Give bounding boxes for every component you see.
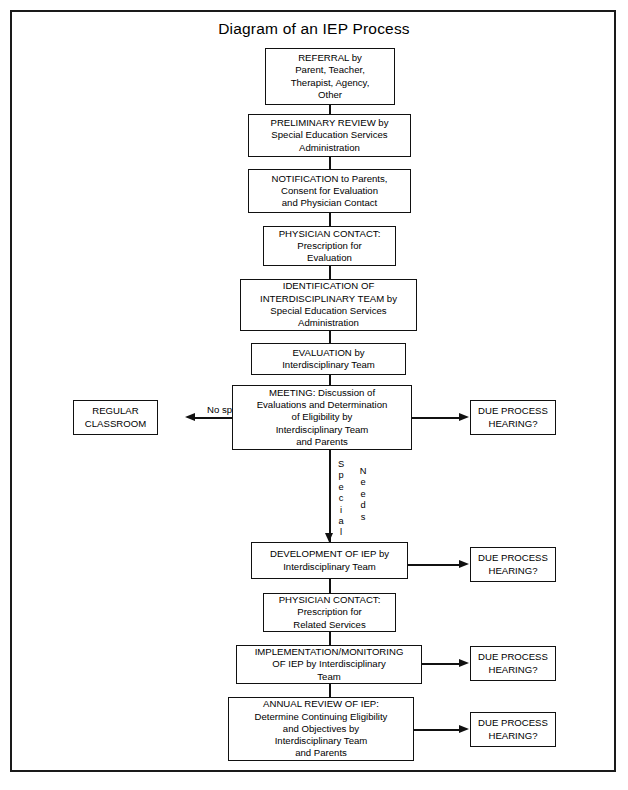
- connector-development-to-physician-services: [329, 579, 331, 593]
- node-physician-contact-related-services[interactable]: PHYSICIAN CONTACT: Prescription for Rela…: [263, 593, 396, 632]
- node-due-process-hearing-3[interactable]: DUE PROCESS HEARING?: [470, 646, 556, 681]
- connector-implementation-to-annual: [329, 684, 331, 697]
- node-annual-review-label: ANNUAL REVIEW OF IEP: Determine Continui…: [232, 698, 410, 759]
- connector-notification-to-physician: [329, 213, 331, 226]
- arrowhead-meeting-to-development: [325, 533, 333, 542]
- node-implementation-monitoring-label: IMPLEMENTATION/MONITORING OF IEP by Inte…: [240, 646, 418, 683]
- diagram-title: Diagram of an IEP Process: [0, 20, 628, 38]
- node-evaluation-label: EVALUATION by Interdisciplinary Team: [255, 347, 402, 372]
- edge-label-needs: Needs Needs: [358, 466, 368, 523]
- node-due-process-hearing-4[interactable]: DUE PROCESS HEARING?: [470, 712, 556, 747]
- connector-physician-to-identification: [329, 266, 331, 279]
- connector-meeting-to-development: [329, 450, 331, 542]
- node-meeting-label: MEETING: Discussion of Evaluations and D…: [236, 387, 408, 448]
- node-preliminary-review[interactable]: PRELIMINARY REVIEW by Special Education …: [248, 114, 411, 157]
- node-referral[interactable]: REFERRAL by Parent, Teacher, Therapist, …: [265, 48, 395, 105]
- connector-annual-review-to-due-process-4: [414, 729, 460, 731]
- arrowhead-due-process-2: [459, 560, 469, 568]
- node-notification-label: NOTIFICATION to Parents, Consent for Eva…: [252, 173, 407, 210]
- node-notification[interactable]: NOTIFICATION to Parents, Consent for Eva…: [248, 169, 411, 213]
- node-development-iep-label: DEVELOPMENT OF IEP by Interdisciplinary …: [255, 548, 404, 573]
- connector-meeting-to-regular-classroom: [195, 417, 232, 419]
- node-due-process-hearing-3-label: DUE PROCESS HEARING?: [474, 651, 552, 676]
- edge-label-special: Special Special: [336, 459, 346, 539]
- connector-physician-services-to-implementation: [329, 632, 331, 645]
- node-physician-contact-evaluation[interactable]: PHYSICIAN CONTACT: Prescription for Eval…: [263, 226, 396, 266]
- node-due-process-hearing-1[interactable]: DUE PROCESS HEARING?: [470, 400, 556, 435]
- iep-process-diagram: Diagram of an IEP Process Special Specia…: [0, 0, 628, 790]
- node-annual-review[interactable]: ANNUAL REVIEW OF IEP: Determine Continui…: [228, 697, 414, 761]
- connector-development-to-due-process-2: [408, 564, 460, 566]
- node-due-process-hearing-4-label: DUE PROCESS HEARING?: [474, 717, 552, 742]
- node-physician-contact-related-services-label: PHYSICIAN CONTACT: Prescription for Rela…: [267, 594, 392, 631]
- node-referral-label: REFERRAL by Parent, Teacher, Therapist, …: [269, 52, 391, 101]
- node-implementation-monitoring[interactable]: IMPLEMENTATION/MONITORING OF IEP by Inte…: [236, 645, 422, 684]
- node-physician-contact-evaluation-label: PHYSICIAN CONTACT: Prescription for Eval…: [267, 228, 392, 265]
- connector-meeting-to-due-process-1: [412, 417, 460, 419]
- arrowhead-due-process-3: [459, 659, 469, 667]
- node-evaluation[interactable]: EVALUATION by Interdisciplinary Team: [251, 343, 406, 375]
- connector-preliminary-to-notification: [329, 157, 331, 169]
- connector-identification-to-evaluation: [329, 331, 331, 343]
- node-due-process-hearing-2[interactable]: DUE PROCESS HEARING?: [470, 547, 556, 582]
- arrowhead-due-process-1: [459, 413, 469, 421]
- node-due-process-hearing-2-label: DUE PROCESS HEARING?: [474, 552, 552, 577]
- node-identification-interdisciplinary-team[interactable]: IDENTIFICATION OF INTERDISCIPLINARY TEAM…: [240, 279, 417, 331]
- node-regular-classroom[interactable]: REGULAR CLASSROOM: [73, 400, 158, 435]
- node-due-process-hearing-1-label: DUE PROCESS HEARING?: [474, 405, 552, 430]
- connector-implementation-to-due-process-3: [422, 663, 460, 665]
- arrowhead-due-process-4: [459, 725, 469, 733]
- node-development-iep[interactable]: DEVELOPMENT OF IEP by Interdisciplinary …: [251, 542, 408, 579]
- node-identification-label: IDENTIFICATION OF INTERDISCIPLINARY TEAM…: [244, 280, 413, 329]
- arrowhead-regular-classroom: [185, 413, 195, 421]
- connector-evaluation-to-meeting: [329, 375, 331, 385]
- node-regular-classroom-label: REGULAR CLASSROOM: [77, 405, 154, 430]
- node-meeting[interactable]: MEETING: Discussion of Evaluations and D…: [232, 385, 412, 450]
- node-preliminary-review-label: PRELIMINARY REVIEW by Special Education …: [252, 117, 407, 154]
